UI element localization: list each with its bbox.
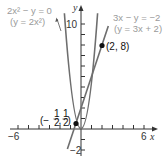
- y-ticks: [81, 24, 85, 150]
- svg-text:,: ,: [59, 115, 62, 126]
- x-axis: [10, 127, 158, 132]
- line-label-line2: (y = 3x + 2): [114, 23, 162, 34]
- point-neg-half-half: [73, 121, 78, 126]
- y-tick-label-10: 10: [66, 19, 78, 30]
- x-axis-label: x: [149, 131, 155, 142]
- svg-text:(−: (−: [40, 115, 49, 126]
- point-label-2-8: (2, 8): [106, 41, 129, 52]
- svg-text:): ): [68, 115, 71, 126]
- point-label-neg-half-half: (− 1 2 , 1 2 ): [40, 108, 71, 128]
- x-tick-label-neg6: −6: [8, 131, 20, 142]
- label-pointer-parabola: [55, 18, 61, 32]
- chart-canvas: 2x² − y = 0 (y = 2x²) 3x − y = −2 (y = 3…: [0, 0, 163, 162]
- parabola-label-line2: (y = 2x²): [10, 16, 45, 27]
- x-tick-label-6: 6: [141, 131, 147, 142]
- y-axis-label: y: [72, 2, 78, 13]
- parabola-label-line1: 2x² − y = 0: [7, 5, 52, 16]
- point-2-8: [99, 43, 104, 48]
- line-label-line1: 3x − y = −2: [113, 12, 160, 23]
- y-axis: [79, 5, 84, 156]
- y-tick-label-neg2: −2: [70, 145, 82, 156]
